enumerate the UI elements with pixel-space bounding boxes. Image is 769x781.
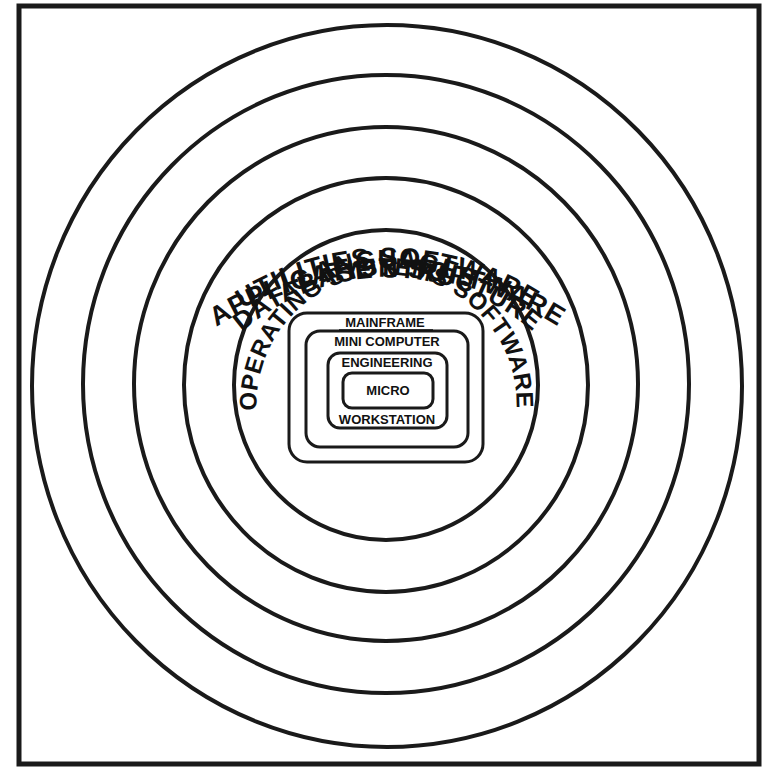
- software-layers-diagram: APPLICATION SOFTWARE UTILITIES SOFTWARE …: [0, 0, 769, 781]
- label-mainframe: MAINFRAME: [345, 315, 425, 330]
- label-mini-computer: MINI COMPUTER: [334, 334, 440, 349]
- label-engineering: ENGINEERING: [341, 355, 432, 370]
- label-micro: MICRO: [366, 383, 409, 398]
- label-workstation: WORKSTATION: [339, 412, 435, 427]
